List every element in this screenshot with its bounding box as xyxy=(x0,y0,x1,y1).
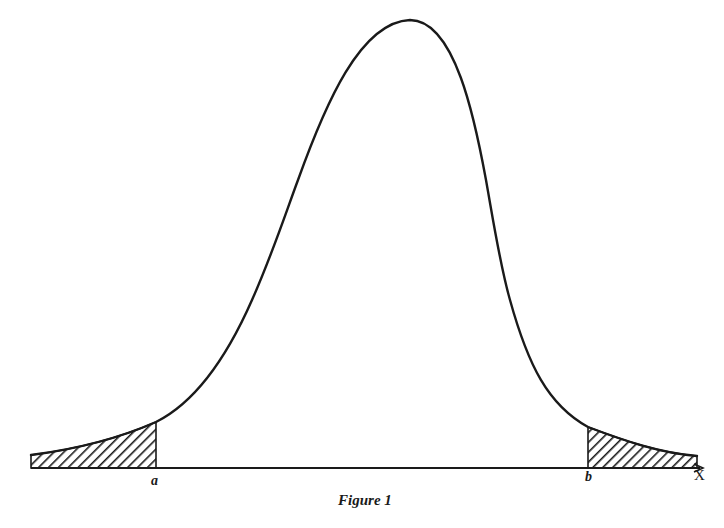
axis-label-x: X xyxy=(694,468,705,483)
marker-label-a: a xyxy=(151,474,158,488)
figure-caption: Figure 1 xyxy=(0,492,724,509)
density-curve xyxy=(31,20,697,456)
distribution-figure xyxy=(0,0,724,528)
marker-label-b: b xyxy=(585,470,592,484)
